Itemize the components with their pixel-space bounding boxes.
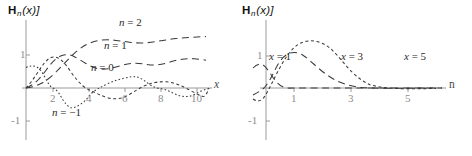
curve-annotation-x-3-val: 3 [358,50,364,62]
curve-annotation-n-minus-1-eq: = [58,106,70,118]
y-ticklabel-neg1-left: -1 [11,114,20,126]
curve-annotation-n-0-eq: = [97,61,109,73]
x-ticklabel-8-left: 8 [158,92,164,104]
x-ticklabel-5-right: 5 [405,92,411,104]
curve-annotation-x-1: x = 1 [269,50,291,62]
y-ticklabel-1-left: 1 [20,48,26,60]
x-ticklabel-6-left: 6 [122,92,128,104]
curve-annotation-n-1-val: 1 [121,39,127,51]
x-ticklabel-10-left: 10 [191,92,202,104]
plot-canvas-left [0,0,236,156]
curve-annotation-x-5-eq: = [409,50,421,62]
x-ticklabel-3-right: 3 [348,92,354,104]
x-axis-label-right: n [449,78,455,90]
curve-annotation-x-3-eq: = [346,50,358,62]
x-ticklabel-2-left: 2 [50,92,56,104]
curve-annotation-n-1: n = 1 [104,39,127,51]
curve-annotation-n-minus-1-val: −1 [69,106,81,118]
curve-annotation-n-2-eq: = [125,16,137,28]
y-ticklabel-1-right: 1 [257,49,263,61]
curve-annotation-n-1-eq: = [110,39,122,51]
curve-annotation-x-5-val: 5 [421,50,427,62]
plot-panel-left: Hn(x)] 1 -1 2 4 6 8 10 x n = 2 [0,0,236,156]
plot-canvas-right [236,0,472,156]
curve-annotation-n-minus-1: n = −1 [52,106,81,118]
plot-panel-right: Hn(x)] 1 -1 1 3 5 n x = 1 x = 3 x = 5 [236,0,472,156]
curve-annotation-n-0: n = 0 [91,61,114,73]
x-ticklabel-4-left: 4 [86,92,92,104]
x-ticklabel-1-right: 1 [291,92,297,104]
curve-annotation-x-1-val: 1 [286,50,292,62]
curve-annotation-n-2: n = 2 [119,16,142,28]
curve-annotation-x-5: x = 5 [404,50,426,62]
curve-n-1 [26,55,206,88]
curve-annotation-n-2-val: 2 [136,16,142,28]
curve-annotation-x-3: x = 3 [341,50,363,62]
x-axis-label-left: x [214,78,219,90]
curve-annotation-n-0-val: 0 [108,61,114,73]
y-ticklabel-neg1-right: -1 [248,114,257,126]
curve-annotation-x-1-eq: = [274,50,286,62]
